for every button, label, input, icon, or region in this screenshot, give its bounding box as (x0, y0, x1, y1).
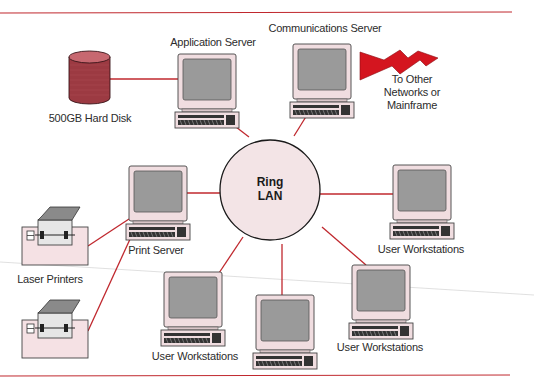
workstation-bottom-right-computer-icon (349, 265, 413, 339)
communications-server-label: Communications Server (268, 22, 381, 34)
printer-bottom-icon (22, 300, 88, 358)
edge-ring-application-server (236, 127, 249, 137)
workstation-right-computer-icon (390, 165, 454, 239)
hard-disk-icon (69, 51, 110, 104)
printer-top-icon (22, 207, 88, 265)
bottom-rule (0, 375, 510, 376)
edge-ring-workstation-bottom-left (219, 237, 243, 273)
edge-print-server-printer-top (88, 219, 129, 246)
external-link-label-line-3: Mainframe (372, 99, 452, 112)
laser-printers-label: Laser Printers (17, 273, 83, 285)
workstation-bottom-left-label: User Workstations (152, 350, 238, 362)
ring-lan-label: Ring LAN (257, 175, 284, 203)
ring-lan-label-line-2: LAN (257, 189, 284, 203)
top-rule (0, 12, 512, 13)
workstation-bottom-left-computer-icon (161, 272, 225, 346)
application-server-label: Application Server (170, 36, 256, 48)
workstation-right-label: User Workstations (378, 243, 464, 255)
external-link-label: To Other Networks or Mainframe (372, 73, 452, 112)
hard-disk-label: 500GB Hard Disk (49, 112, 132, 124)
edge-ring-workstation-bottom-right (322, 227, 366, 265)
external-link-label-line-1: To Other (372, 73, 452, 86)
ring-lan-diagram: Application Server Communications Server… (0, 0, 534, 386)
workstation-bottom-center-computer-icon (253, 295, 317, 369)
workstation-bottom-right-label: User Workstations (337, 341, 423, 353)
print-server-label: Print Server (128, 244, 184, 256)
ring-lan-label-line-1: Ring (257, 175, 284, 189)
external-link-label-line-2: Networks or (372, 86, 452, 99)
print-server-computer-icon (126, 166, 190, 240)
edge-print-server-printer-bottom (88, 237, 131, 331)
communications-server-computer-icon (290, 44, 354, 118)
application-server-computer-icon (175, 54, 239, 128)
